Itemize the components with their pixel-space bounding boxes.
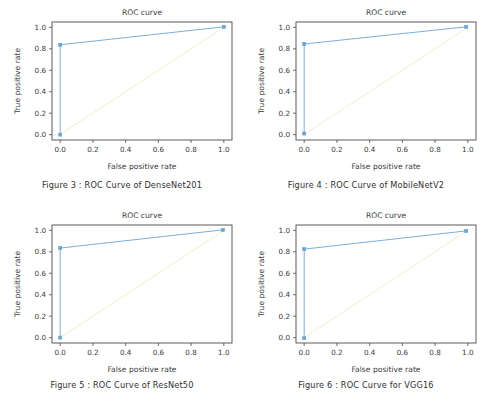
figure-cell-fig4: ROC curve0.00.20.40.60.81.00.00.20.40.60… [244,0,488,203]
roc-data-point [465,25,468,28]
plot-area-fig4: ROC curve0.00.20.40.60.81.00.00.20.40.60… [244,0,488,180]
chart-title: ROC curve [366,211,407,220]
roc-figure-grid: ROC curve0.00.20.40.60.81.00.00.20.40.60… [0,0,488,406]
x-tick-label: 0.8 [185,348,197,357]
y-axis-label: True positive rate [257,48,266,115]
figure-cell-fig6: ROC curve0.00.20.40.60.81.00.00.20.40.60… [244,203,488,406]
roc-data-point [59,133,62,136]
roc-data-point [222,228,225,231]
roc-data-point [303,337,306,340]
y-tick-label: 1.0 [35,23,47,32]
x-tick-label: 0.2 [331,348,342,357]
plot-area-fig3: ROC curve0.00.20.40.60.81.00.00.20.40.60… [0,0,244,180]
x-tick-label: 0.4 [364,145,376,154]
y-axis-label: True positive rate [13,48,22,115]
y-axis-label: True positive rate [257,251,266,318]
x-axis-label: False positive rate [351,365,420,374]
x-tick-label: 0.4 [364,348,376,357]
x-tick-label: 0.2 [331,145,342,154]
x-tick-label: 0.6 [153,145,165,154]
roc-data-point [465,229,468,232]
roc-data-point [59,336,62,339]
y-tick-label: 0.0 [35,333,47,342]
y-axis-label: True positive rate [13,251,22,318]
figure-caption-fig4: Figure 4 : ROC Curve of MobileNetV2 [244,180,488,190]
x-tick-label: 0.0 [298,348,310,357]
x-tick-label: 0.4 [120,145,132,154]
y-tick-label: 0.4 [35,290,47,299]
y-tick-label: 0.4 [279,290,291,299]
chance-diagonal-line [60,230,224,337]
roc-data-point [59,43,62,46]
x-tick-label: 1.0 [462,348,474,357]
x-tick-label: 0.0 [54,348,66,357]
y-tick-label: 0.2 [35,109,46,118]
y-tick-label: 0.6 [279,269,291,278]
chance-diagonal-line [304,27,468,134]
x-axis-label: False positive rate [107,365,176,374]
x-tick-label: 1.0 [218,348,230,357]
y-tick-label: 0.6 [35,269,47,278]
x-axis-label: False positive rate [107,162,176,171]
x-tick-label: 0.8 [429,348,441,357]
x-tick-label: 0.0 [298,145,310,154]
y-tick-label: 0.2 [279,312,290,321]
y-tick-label: 1.0 [279,23,291,32]
y-tick-label: 0.6 [279,66,291,75]
chart-title: ROC curve [122,211,163,220]
roc-data-point [303,42,306,45]
x-tick-label: 0.8 [185,145,197,154]
roc-chart-fig6: ROC curve0.00.20.40.60.81.00.00.20.40.60… [244,203,488,383]
x-tick-label: 0.8 [429,145,441,154]
figure-caption-fig5: Figure 5 : ROC Curve of ResNet50 [0,380,244,390]
roc-data-point [303,132,306,135]
roc-curve-line [304,27,466,134]
y-tick-label: 0.8 [35,247,47,256]
y-tick-label: 0.8 [35,44,47,53]
roc-data-point [303,248,306,251]
figure-caption-fig3: Figure 3 : ROC Curve of DenseNet201 [0,180,244,190]
x-tick-label: 0.6 [397,145,409,154]
y-tick-label: 1.0 [279,226,291,235]
x-tick-label: 0.6 [397,348,409,357]
roc-chart-fig3: ROC curve0.00.20.40.60.81.00.00.20.40.60… [0,0,244,180]
y-tick-label: 0.0 [279,130,291,139]
figure-cell-fig5: ROC curve0.00.20.40.60.81.00.00.20.40.60… [0,203,244,406]
x-tick-label: 1.0 [462,145,474,154]
y-tick-label: 1.0 [35,226,47,235]
y-tick-label: 0.0 [279,333,291,342]
x-tick-label: 0.6 [153,348,165,357]
x-axis-label: False positive rate [351,162,420,171]
y-tick-label: 0.4 [35,87,47,96]
roc-data-point [222,25,225,28]
x-tick-label: 0.0 [54,145,66,154]
roc-chart-fig5: ROC curve0.00.20.40.60.81.00.00.20.40.60… [0,203,244,383]
x-tick-label: 1.0 [218,145,230,154]
x-tick-label: 0.2 [87,348,98,357]
y-tick-label: 0.8 [279,44,291,53]
y-tick-label: 0.0 [35,130,47,139]
chart-title: ROC curve [366,8,407,17]
roc-data-point [59,247,62,250]
plot-area-fig5: ROC curve0.00.20.40.60.81.00.00.20.40.60… [0,203,244,383]
x-tick-label: 0.2 [87,145,98,154]
roc-chart-fig4: ROC curve0.00.20.40.60.81.00.00.20.40.60… [244,0,488,180]
y-tick-label: 0.6 [35,66,47,75]
x-tick-label: 0.4 [120,348,132,357]
y-tick-label: 0.2 [35,312,46,321]
figure-cell-fig3: ROC curve0.00.20.40.60.81.00.00.20.40.60… [0,0,244,203]
figure-caption-fig6: Figure 6 : ROC Curve for VGG16 [244,380,488,390]
y-tick-label: 0.2 [279,109,290,118]
chart-title: ROC curve [122,8,163,17]
plot-area-fig6: ROC curve0.00.20.40.60.81.00.00.20.40.60… [244,203,488,383]
chance-diagonal-line [60,27,224,134]
y-tick-label: 0.4 [279,87,291,96]
y-tick-label: 0.8 [279,247,291,256]
